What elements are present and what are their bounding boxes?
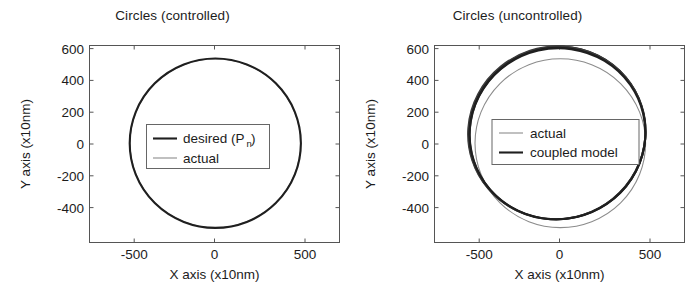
panel-circles-controlled: Circles (controlled) [0, 0, 345, 296]
xtick-label-right-2: 500 [639, 247, 662, 262]
legend-label-desired: desired (P [183, 131, 245, 146]
ytick-label-right-3: 0 [421, 137, 429, 152]
plot-left: 600 400 200 0 -200 -400 -500 0 500 X axi… [0, 0, 345, 296]
panel-circles-uncontrolled: Circles (uncontrolled) [345, 0, 690, 296]
ytick-label-left-3: 0 [76, 137, 84, 152]
legend-right[interactable]: actual coupled model [492, 120, 639, 165]
plot-right: 600 400 200 0 -200 -400 -500 0 500 X axi… [345, 0, 690, 296]
xaxis-label-left: X axis (x10nm) [169, 267, 259, 282]
ytick-label-right-5: -400 [402, 201, 429, 216]
ytick-label-left-1: 400 [61, 73, 84, 88]
xtick-label-left-0: -500 [121, 247, 148, 262]
yaxis-label-left: Y axis (x10nm) [18, 99, 33, 189]
legend-label-desired-tail: ) [251, 131, 256, 146]
legend-label-actual: actual [530, 126, 566, 141]
yaxis-label-right: Y axis (x10nm) [363, 99, 378, 189]
ytick-label-left-5: -400 [57, 201, 84, 216]
legend-label-coupled-model: coupled model [530, 145, 618, 160]
legend-left[interactable]: desired (P n ) actual [147, 125, 270, 169]
legend-label-actual: actual [183, 151, 219, 166]
ytick-label-left-0: 600 [61, 42, 84, 57]
ytick-label-right-0: 600 [406, 42, 429, 57]
ytick-label-right-1: 400 [406, 73, 429, 88]
xaxis-label-right: X axis (x10nm) [514, 267, 604, 282]
ytick-label-right-4: -200 [402, 169, 429, 184]
figure-root: Circles (controlled) [0, 0, 690, 296]
xtick-label-left-2: 500 [294, 247, 317, 262]
ytick-label-left-2: 200 [61, 105, 84, 120]
xtick-label-left-1: 0 [211, 247, 219, 262]
xtick-label-right-1: 0 [556, 247, 564, 262]
ytick-label-left-4: -200 [57, 169, 84, 184]
xtick-label-right-0: -500 [466, 247, 493, 262]
ytick-label-right-2: 200 [406, 105, 429, 120]
